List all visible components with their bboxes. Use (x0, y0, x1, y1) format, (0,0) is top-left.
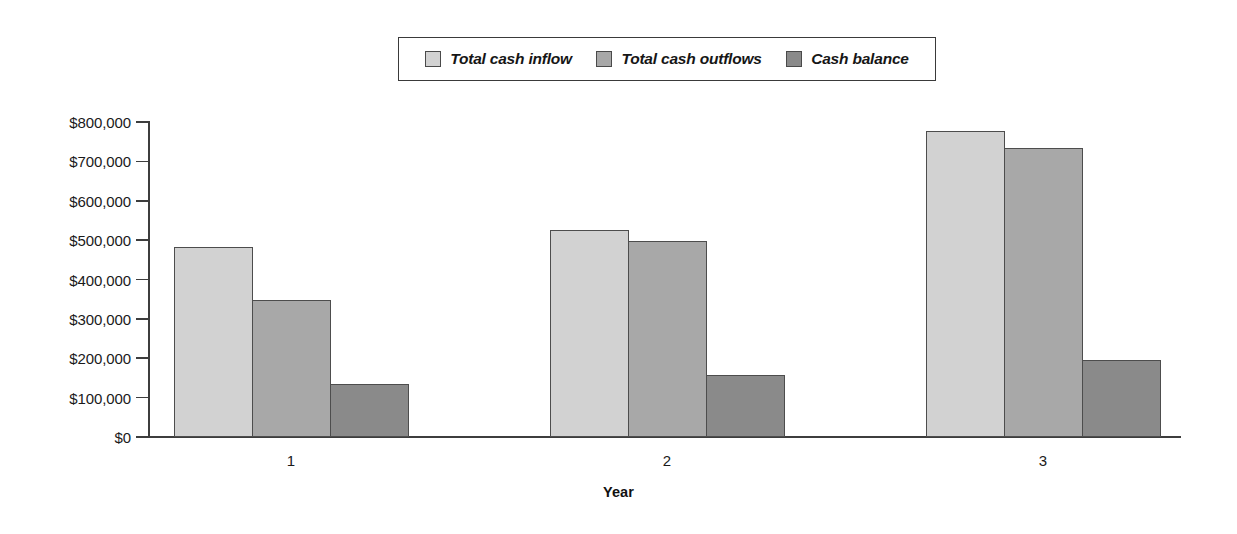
bar-group-year-2 (550, 121, 784, 437)
plot-area: $0$100,000$200,000$300,000$400,000$500,0… (0, 0, 1237, 534)
y-axis-tick-label: $200,000 (69, 350, 131, 367)
bar-cash-balance-year-1 (330, 384, 409, 437)
y-axis-tick-label: $0 (115, 429, 132, 446)
y-axis-tick-label: $500,000 (69, 232, 131, 249)
bar-cash-balance-year-2 (706, 375, 785, 437)
bar-group-year-1 (174, 121, 408, 437)
y-axis-tick-mark (136, 161, 148, 163)
x-axis-tick-label-1: 1 (287, 452, 295, 469)
bar-group-year-3 (926, 121, 1160, 437)
y-axis-tick-mark (136, 397, 148, 399)
y-axis-tick-mark (136, 279, 148, 281)
y-axis-line (148, 121, 150, 438)
y-axis-tick-mark (136, 200, 148, 202)
bar-total-cash-inflow-year-2 (550, 230, 629, 438)
x-axis-title: Year (0, 484, 1237, 500)
y-axis-tick-label: $800,000 (69, 114, 131, 131)
bar-total-cash-inflow-year-3 (926, 131, 1005, 437)
x-axis-tick-label-3: 3 (1039, 452, 1047, 469)
cash-flow-bar-chart: Total cash inflow Total cash outflows Ca… (0, 0, 1237, 534)
y-axis-tick-label: $600,000 (69, 192, 131, 209)
y-axis-tick-label: $700,000 (69, 153, 131, 170)
y-axis-tick-label: $400,000 (69, 271, 131, 288)
y-axis-tick-label: $300,000 (69, 310, 131, 327)
bar-total-cash-outflows-year-2 (628, 241, 707, 437)
y-axis-tick-mark (136, 357, 148, 359)
bar-total-cash-outflows-year-3 (1004, 148, 1083, 437)
y-axis-tick-mark (136, 239, 148, 241)
y-axis-tick-mark (136, 436, 148, 438)
y-axis-tick-label: $100,000 (69, 389, 131, 406)
x-axis-tick-label-2: 2 (663, 452, 671, 469)
bar-total-cash-inflow-year-1 (174, 247, 253, 437)
y-axis-tick-mark (136, 121, 148, 123)
y-axis-tick-mark (136, 318, 148, 320)
bar-cash-balance-year-3 (1082, 360, 1161, 437)
bar-total-cash-outflows-year-1 (252, 300, 331, 437)
